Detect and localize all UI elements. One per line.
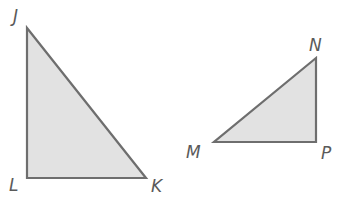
diagram-canvas: J L K N M P (0, 0, 349, 198)
vertex-label-p: P (321, 143, 332, 163)
vertex-label-n: N (309, 35, 322, 55)
vertex-label-k: K (151, 176, 164, 196)
triangle-mnp (214, 58, 316, 142)
vertex-label-l: L (9, 175, 18, 195)
vertex-label-j: J (10, 6, 18, 26)
vertex-label-m: M (186, 142, 201, 162)
triangle-jlk (27, 28, 146, 178)
